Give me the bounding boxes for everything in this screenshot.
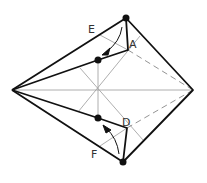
lower-inner-dot [95, 115, 102, 122]
crease-lines [12, 35, 193, 146]
dashed-folds [127, 50, 193, 128]
diagonal-crease-2 [80, 68, 143, 140]
crease-E-A [100, 35, 128, 50]
top-dot [123, 15, 130, 22]
arrowhead-upper [102, 48, 110, 55]
label-E: E [88, 23, 95, 36]
origami-diagram: E A D F [0, 0, 207, 183]
label-A: A [129, 38, 137, 51]
fold-arrows [102, 27, 122, 154]
bottom-dot [120, 159, 127, 166]
label-D: D [122, 116, 130, 129]
label-F: F [91, 148, 97, 161]
dashed-fold-lower [127, 90, 193, 128]
upper-inner-dot [95, 57, 102, 64]
